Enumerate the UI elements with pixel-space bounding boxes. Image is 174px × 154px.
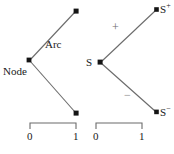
left-axis-bracket [30,123,76,129]
right-lower-node-dot [154,110,159,115]
right-lower-arc-line [101,63,155,111]
right-lower-arc-sign-label: − [124,89,131,101]
right-upper-node-dot [154,7,159,12]
right-upper-arc-sign-label: + [112,21,119,33]
right-upper-arc-line [101,11,155,62]
figure-canvas: Arc Node 0 1 S S+ S− + − 0 1 [0,0,174,154]
right-diagram-group [96,7,159,129]
right-lower-leaf-superscript: − [166,104,171,113]
left-diagram-group [27,9,79,129]
right-axis-tick-0: 0 [93,131,99,142]
right-root-node-dot [98,60,103,65]
right-axis-bracket [96,123,142,129]
left-axis-tick-0: 0 [27,131,33,142]
left-lower-arc-line [30,61,75,112]
left-lower-node-dot [74,111,79,116]
right-axis-tick-1: 1 [139,131,145,142]
left-node-label: Node [3,66,27,77]
left-axis-tick-1: 1 [73,131,79,142]
left-upper-arc-line [30,12,75,60]
right-root-state-label: S [86,57,92,68]
left-upper-node-dot [74,9,79,14]
right-upper-leaf-label: S+ [160,2,171,15]
left-arc-label: Arc [45,39,62,50]
left-root-node-dot [27,58,32,63]
right-lower-leaf-label: S− [160,105,171,118]
right-upper-leaf-superscript: + [166,1,171,10]
